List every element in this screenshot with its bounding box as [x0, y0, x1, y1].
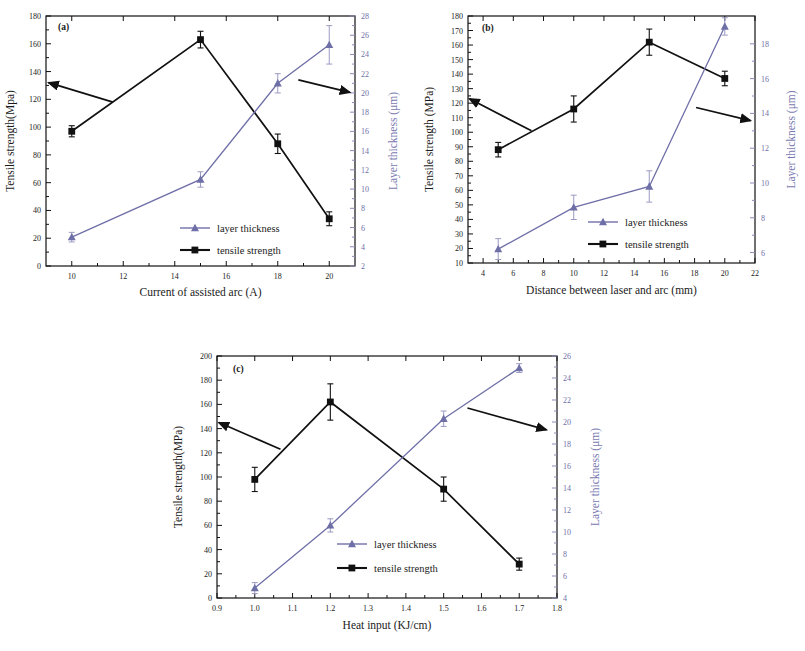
y-tick-label-right: 6: [563, 572, 567, 581]
data-point-square: [197, 36, 204, 43]
legend-label: layer thickness: [217, 223, 280, 234]
y-tick-label-right: 16: [361, 127, 369, 136]
y-tick-label-left: 0: [208, 594, 212, 603]
y-tick-label-right: 2: [361, 262, 365, 271]
data-point-triangle: [325, 41, 333, 48]
x-tick-label: 6: [511, 269, 515, 278]
y-tick-label-right: 18: [761, 40, 769, 49]
y-tick-label-right: 14: [761, 109, 769, 118]
y-tick-label-left: 70: [455, 172, 463, 181]
data-point-triangle: [274, 79, 282, 86]
y-tick-label-left: 100: [451, 128, 463, 137]
x-tick-label: 12: [600, 269, 608, 278]
y-tick-label-left: 180: [29, 12, 41, 21]
y-tick-label-right: 4: [361, 243, 365, 252]
y-tick-label-left: 140: [200, 425, 212, 434]
legend-label: layer thickness: [374, 539, 437, 550]
y-tick-label-left: 60: [455, 186, 463, 195]
axis-pointer-arrow: [696, 108, 750, 121]
x-tick-label: 10: [570, 269, 578, 278]
x-tick-label: 1.6: [476, 604, 486, 613]
x-tick-label: 4: [481, 269, 485, 278]
x-tick-label: 1.0: [250, 604, 260, 613]
legend-label: tensile strength: [625, 239, 690, 250]
y-tick-label-right: 6: [761, 249, 765, 258]
data-point-square: [327, 399, 334, 406]
series-line-layer-thickness: [498, 26, 725, 249]
y-tick-label-left: 110: [451, 114, 463, 123]
y-tick-label-left: 160: [200, 400, 212, 409]
y-tick-label-right: 26: [361, 31, 369, 40]
y-tick-label-left: 80: [33, 151, 41, 160]
legend-marker-square: [192, 247, 199, 254]
y-tick-label-right: 24: [361, 50, 369, 59]
y-tick-label-left: 90: [455, 143, 463, 152]
y-tick-label-left: 80: [455, 157, 463, 166]
data-point-square: [721, 75, 728, 82]
panel-tag: (c): [233, 364, 244, 375]
x-tick-label: 0.9: [212, 604, 222, 613]
panel-c-svg: 0.91.01.11.21.31.41.51.61.71.80204060801…: [155, 338, 655, 651]
panel-a: 1012141618200204060801001201401601802468…: [0, 0, 410, 310]
x-tick-label: 1.8: [552, 604, 562, 613]
y-tick-label-left: 170: [451, 27, 463, 36]
y-tick-label-left: 160: [451, 41, 463, 50]
y-tick-label-left: 0: [37, 262, 41, 271]
x-tick-label: 1.7: [514, 604, 524, 613]
series-line-layer-thickness: [72, 45, 330, 237]
y-tick-label-right: 18: [563, 440, 571, 449]
y-tick-label-left: 10: [455, 259, 463, 268]
y-tick-label-right: 20: [563, 418, 571, 427]
x-axis-label: Distance between laser and arc (mm): [526, 284, 697, 297]
x-tick-label: 1.4: [401, 604, 411, 613]
y-tick-label-right: 26: [563, 352, 571, 361]
panel-a-svg: 1012141618200204060801001201401601802468…: [0, 0, 410, 310]
data-point-triangle: [645, 182, 653, 189]
y-tick-label-left: 100: [29, 123, 41, 132]
y-tick-label-right: 10: [563, 528, 571, 537]
x-tick-label: 10: [68, 272, 76, 281]
data-point-square: [495, 146, 502, 153]
y-tick-label-right: 14: [563, 484, 571, 493]
y-tick-label-left: 120: [29, 95, 41, 104]
panel-tag: (a): [58, 22, 69, 33]
y-tick-label-left: 100: [200, 473, 212, 482]
data-point-square: [251, 476, 258, 483]
data-point-triangle: [440, 415, 448, 422]
x-tick-label: 1.2: [325, 604, 335, 613]
data-point-triangle: [494, 245, 502, 252]
data-point-triangle: [515, 364, 523, 371]
y-tick-label-left: 40: [204, 546, 212, 555]
panel-c: 0.91.01.11.21.31.41.51.61.71.80204060801…: [155, 338, 655, 651]
data-point-square: [570, 106, 577, 113]
y-tick-label-left: 20: [204, 570, 212, 579]
x-tick-label: 12: [119, 272, 127, 281]
y-tick-label-right: 6: [361, 224, 365, 233]
x-tick-label: 8: [542, 269, 546, 278]
data-point-triangle: [721, 22, 729, 29]
data-point-square: [646, 39, 653, 46]
x-tick-label: 22: [751, 269, 759, 278]
axis-pointer-arrow: [470, 99, 532, 131]
x-tick-label: 20: [721, 269, 729, 278]
y-tick-label-left: 30: [455, 230, 463, 239]
panel-tag: (b): [482, 23, 494, 34]
y-tick-label-right: 28: [361, 12, 369, 21]
data-point-square: [440, 486, 447, 493]
y-tick-label-left: 20: [455, 244, 463, 253]
y-tick-label-right: 8: [761, 214, 765, 223]
figure-three-panel-chart: 1012141618200204060801001201401601802468…: [0, 0, 805, 651]
series-line-layer-thickness: [255, 368, 519, 588]
y-tick-label-left: 180: [200, 376, 212, 385]
plot-frame: [217, 356, 557, 598]
x-axis-label: Current of assisted arc (A): [140, 286, 262, 299]
x-axis-label: Heat input (KJ/cm): [343, 619, 432, 632]
y-tick-label-right: 24: [563, 374, 571, 383]
y-tick-label-right: 22: [361, 70, 369, 79]
y-tick-label-left: 200: [200, 352, 212, 361]
legend-label: layer thickness: [625, 217, 688, 228]
y-tick-label-left: 20: [33, 234, 41, 243]
y-tick-label-right: 8: [563, 550, 567, 559]
y-tick-label-left: 130: [451, 85, 463, 94]
series-line-tensile-strength: [72, 40, 330, 219]
